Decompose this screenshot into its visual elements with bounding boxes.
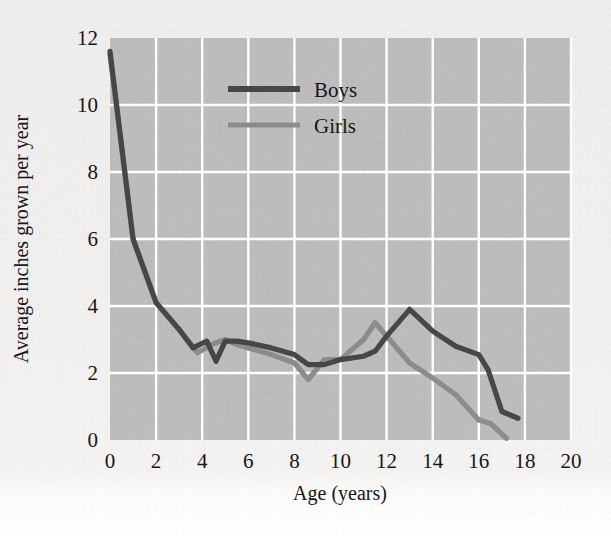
y-tick-label: 10 bbox=[77, 93, 98, 117]
x-tick-label: 14 bbox=[422, 449, 444, 473]
x-tick-label: 4 bbox=[197, 449, 208, 473]
x-tick-label: 18 bbox=[514, 449, 535, 473]
y-tick-label: 6 bbox=[88, 227, 99, 251]
y-axis-tick-labels: 024681012 bbox=[77, 26, 99, 452]
x-tick-label: 20 bbox=[561, 449, 582, 473]
y-tick-label: 12 bbox=[77, 26, 98, 50]
x-tick-label: 12 bbox=[376, 449, 397, 473]
y-tick-label: 2 bbox=[88, 361, 99, 385]
x-tick-label: 0 bbox=[105, 449, 116, 473]
y-tick-label: 4 bbox=[88, 294, 99, 318]
x-axis-title: Age (years) bbox=[293, 482, 387, 505]
legend-label-boys: Boys bbox=[314, 78, 357, 102]
x-tick-label: 16 bbox=[468, 449, 489, 473]
growth-rate-line-chart: 02468101214161820 024681012 Age (years) … bbox=[0, 0, 611, 536]
x-tick-label: 8 bbox=[289, 449, 300, 473]
x-axis-tick-labels: 02468101214161820 bbox=[105, 449, 582, 473]
y-tick-label: 8 bbox=[88, 160, 99, 184]
x-tick-label: 2 bbox=[151, 449, 162, 473]
y-axis-title: Average inches grown per year bbox=[10, 114, 33, 363]
x-tick-label: 10 bbox=[330, 449, 351, 473]
figure-canvas: 02468101214161820 024681012 Age (years) … bbox=[0, 0, 611, 536]
y-tick-label: 0 bbox=[88, 428, 99, 452]
legend-label-girls: Girls bbox=[314, 114, 356, 138]
x-tick-label: 6 bbox=[243, 449, 254, 473]
